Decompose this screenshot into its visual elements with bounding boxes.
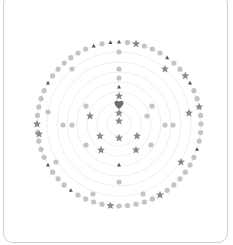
dot-piece-icon[interactable] [83,142,88,147]
game-board[interactable] [0,0,233,245]
dot-piece-icon[interactable] [133,202,138,207]
dot-piece-icon[interactable] [177,67,182,72]
dot-piece-icon[interactable] [83,196,88,201]
dot-piece-icon[interactable] [45,109,50,114]
dot-piece-icon[interactable] [68,55,73,60]
dot-piece-icon[interactable] [36,104,41,109]
dot-piece-icon[interactable] [150,46,155,51]
dot-piece-icon[interactable] [41,88,46,93]
dot-piece-icon[interactable] [36,138,41,143]
dot-piece-icon[interactable] [50,73,55,78]
dot-piece-icon[interactable] [116,203,121,208]
dot-piece-icon[interactable] [38,96,43,101]
triangle-piece-icon[interactable] [165,55,169,59]
star-piece-icon[interactable] [115,92,123,100]
dot-piece-icon[interactable] [41,155,46,160]
dot-piece-icon[interactable] [55,67,60,72]
dot-piece-icon[interactable] [50,170,55,175]
dot-piece-icon[interactable] [191,88,196,93]
dot-piece-icon[interactable] [116,66,121,71]
dot-piece-icon[interactable] [177,176,182,181]
triangle-piece-icon[interactable] [117,163,121,167]
dot-piece-icon[interactable] [183,170,188,175]
dot-piece-icon[interactable] [148,142,153,147]
dot-piece-icon[interactable] [191,155,196,160]
dot-piece-icon[interactable] [125,203,130,208]
dot-piece-icon[interactable] [53,159,58,164]
dot-piece-icon[interactable] [55,176,60,181]
dot-piece-icon[interactable] [125,40,130,45]
dot-piece-icon[interactable] [69,66,74,71]
star-piece-icon[interactable] [115,109,123,117]
dot-piece-icon[interactable] [157,50,162,55]
star-piece-icon[interactable] [132,40,140,48]
dot-piece-icon[interactable] [69,122,74,127]
dot-piece-icon[interactable] [60,122,65,127]
dot-piece-icon[interactable] [170,122,175,127]
star-piece-icon[interactable] [115,117,123,125]
dot-piece-icon[interactable] [91,199,96,204]
dot-piece-icon[interactable] [62,182,67,187]
triangle-piece-icon[interactable] [195,147,199,151]
dot-piece-icon[interactable] [140,191,145,196]
dot-piece-icon[interactable] [99,41,104,46]
dot-piece-icon[interactable] [198,130,203,135]
star-piece-icon[interactable] [185,109,193,117]
dot-piece-icon[interactable] [62,60,67,65]
dot-piece-icon[interactable] [197,138,202,143]
dot-piece-icon[interactable] [162,122,167,127]
triangle-piece-icon[interactable] [117,85,121,89]
heart-piece-icon[interactable] [114,101,123,109]
dot-piece-icon[interactable] [75,50,80,55]
dot-piece-icon[interactable] [116,75,121,80]
dot-piece-icon[interactable] [38,147,43,152]
dot-piece-icon[interactable] [198,121,203,126]
board-ring [47,52,191,196]
star-piece-icon[interactable] [156,191,164,199]
dot-piece-icon[interactable] [75,192,80,197]
dot-piece-icon[interactable] [83,46,88,51]
dot-piece-icon[interactable] [150,196,155,201]
dot-piece-icon[interactable] [142,43,147,48]
dot-piece-icon[interactable] [171,182,176,187]
dot-piece-icon[interactable] [90,191,95,196]
dot-piece-icon[interactable] [194,96,199,101]
star-piece-icon[interactable] [133,132,141,140]
dot-piece-icon[interactable] [198,113,203,118]
dot-piece-icon[interactable] [171,60,176,65]
dot-piece-icon[interactable] [35,113,40,118]
dot-piece-icon[interactable] [116,49,121,54]
board-pieces[interactable] [33,40,204,209]
star-piece-icon[interactable] [106,201,114,209]
board-ring [107,112,131,136]
dot-piece-icon[interactable] [142,199,147,204]
dot-piece-icon[interactable] [116,179,121,184]
star-piece-icon[interactable] [115,134,123,142]
dot-piece-icon[interactable] [99,202,104,207]
dot-piece-icon[interactable] [149,103,154,108]
dot-piece-icon[interactable] [165,188,170,193]
dot-piece-icon[interactable] [83,103,88,108]
dot-piece-icon[interactable] [144,113,149,118]
dot-piece-icon[interactable] [187,162,192,167]
